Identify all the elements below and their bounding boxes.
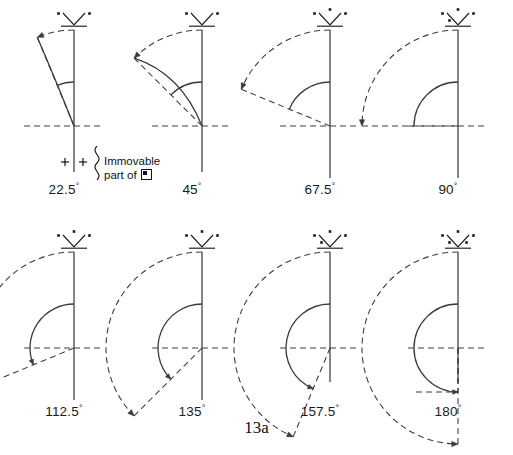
annotation-line-1: Immovable [104, 155, 224, 169]
inner-solid-arc [289, 82, 330, 109]
radius-guide-line [134, 58, 202, 126]
degree-symbol: ° [458, 403, 462, 413]
degree-symbol: ° [202, 403, 206, 413]
panel-157-5-angle-label: 157.5° [256, 404, 384, 419]
panel-135-drawing [128, 222, 256, 400]
degree-symbol: ° [79, 403, 83, 413]
panel-112-5: 112.5° [0, 222, 128, 427]
annotation-line-2-text: part of [104, 169, 137, 181]
panel-135: 135° [128, 222, 256, 427]
outer-trajectory-arc [0, 252, 74, 385]
step-detail [414, 348, 458, 392]
angle-value: 45 [182, 182, 197, 197]
panel-67-5-drawing [256, 0, 384, 178]
panel-45-drawing [128, 0, 256, 178]
panel-157-5: 157.5° [256, 222, 384, 427]
inner-solid-arc [414, 82, 458, 126]
ground-markers [0, 0, 128, 178]
panel-180-drawing [384, 222, 512, 400]
angle-value: 157.5 [301, 404, 336, 419]
angle-value: 135 [179, 404, 202, 419]
inner-solid-arc [158, 304, 202, 379]
v-marker-icon [313, 230, 347, 248]
immovable-part-annotation: Immovablepart of [104, 155, 224, 182]
outer-trajectory-arc [134, 30, 202, 58]
panel-135-angle-label: 135° [128, 404, 256, 419]
panel-180-angle-label: 180° [384, 404, 512, 419]
v-marker-icon [185, 230, 219, 248]
degree-symbol: ° [454, 181, 458, 191]
degree-symbol: ° [76, 181, 80, 191]
panel-22-5-angle-label: 22.5° [0, 182, 128, 197]
angle-value: 180 [435, 404, 458, 419]
annotation-line-2: part of [104, 169, 224, 183]
figure-13a: 22.5°45°67.5°90°112.5°135°157.5°180°Immo… [0, 0, 513, 455]
panel-90-drawing [384, 0, 512, 178]
angle-value: 67.5 [305, 182, 332, 197]
panel-67-5: 67.5° [256, 0, 384, 205]
square-in-square-symbol [141, 169, 152, 180]
v-marker-icon [313, 8, 347, 26]
panel-112-5-drawing [0, 222, 128, 400]
degree-symbol: ° [198, 181, 202, 191]
panel-90-angle-label: 90° [384, 182, 512, 197]
panel-67-5-angle-label: 67.5° [256, 182, 384, 197]
inner-solid-arc [286, 304, 330, 389]
v-marker-icon [441, 8, 475, 26]
panel-45-angle-label: 45° [128, 182, 256, 197]
v-marker-icon [441, 230, 475, 248]
panel-112-5-angle-label: 112.5° [0, 404, 128, 419]
panel-90: 90° [384, 0, 512, 205]
angle-value: 90 [438, 182, 453, 197]
panel-180: 180° [384, 222, 512, 427]
degree-symbol: ° [332, 181, 336, 191]
v-marker-icon [57, 230, 91, 248]
inner-solid-arc [30, 304, 74, 365]
v-marker-icon [185, 12, 219, 26]
angle-value: 22.5 [49, 182, 76, 197]
degree-symbol: ° [335, 403, 339, 413]
figure-caption: 13a [0, 418, 513, 438]
radius-guide-line [0, 348, 74, 385]
panel-157-5-drawing [256, 222, 384, 400]
angle-value: 112.5 [45, 404, 79, 419]
